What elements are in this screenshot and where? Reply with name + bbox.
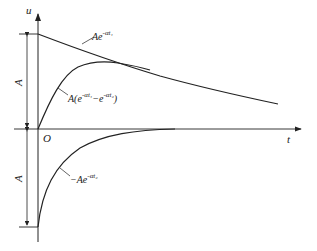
y-axis-label: u (26, 4, 32, 16)
difference-curve-label: A(e-αt₁−e-αt₂) (67, 91, 118, 105)
origin-label: O (43, 132, 51, 144)
t-axis-label: t (287, 133, 291, 145)
lower-curve-label: −Ae-αt₂ (70, 172, 98, 185)
upper-curve-label: Ae-αt₁ (91, 29, 113, 42)
lower-decay-curve (38, 129, 175, 227)
lower-amplitude-label: A (12, 175, 24, 183)
lower-curve-leader (60, 168, 70, 176)
difference-curve-leader (58, 88, 68, 95)
upper-amplitude-label: A (12, 79, 24, 87)
waveform-diagram: u t O A A Ae-αt₁ A(e-αt₁−e-αt₂) −Ae-αt₂ (0, 0, 317, 251)
